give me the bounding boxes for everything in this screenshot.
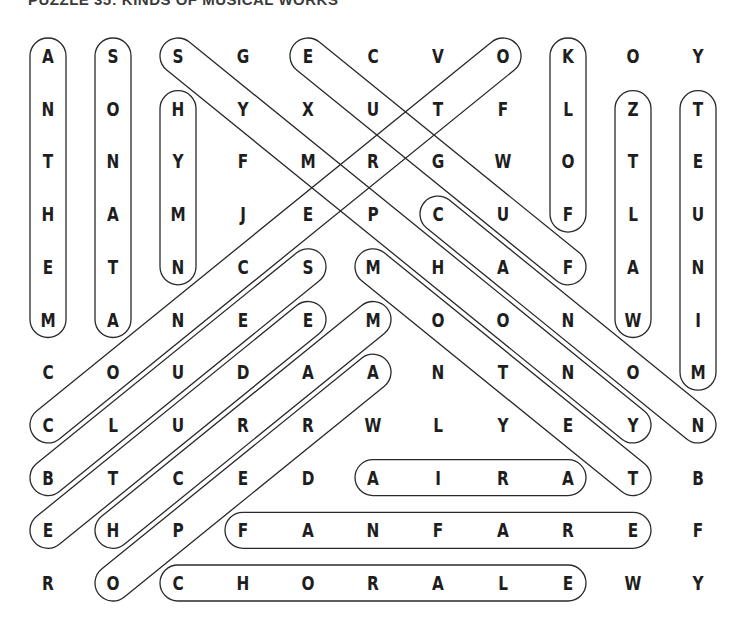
grid-cell[interactable]: N <box>681 252 715 282</box>
grid-cell[interactable]: L <box>421 410 455 440</box>
grid-cell[interactable]: Y <box>681 568 715 598</box>
grid-cell[interactable]: B <box>31 463 65 493</box>
grid-cell[interactable]: Y <box>486 410 520 440</box>
grid-cell[interactable]: U <box>161 410 195 440</box>
grid-cell[interactable]: T <box>486 357 520 387</box>
grid-cell[interactable]: H <box>421 252 455 282</box>
grid-cell[interactable]: C <box>161 463 195 493</box>
grid-cell[interactable]: M <box>291 146 325 176</box>
grid-cell[interactable]: R <box>486 463 520 493</box>
grid-cell[interactable]: A <box>291 515 325 545</box>
grid-cell[interactable]: F <box>421 515 455 545</box>
grid-cell[interactable]: Y <box>161 146 195 176</box>
grid-cell[interactable]: A <box>291 357 325 387</box>
grid-cell[interactable]: N <box>551 305 585 335</box>
grid-cell[interactable]: G <box>421 146 455 176</box>
grid-cell[interactable]: M <box>31 305 65 335</box>
grid-cell[interactable]: R <box>291 410 325 440</box>
grid-cell[interactable]: J <box>226 199 260 229</box>
grid-cell[interactable]: S <box>291 252 325 282</box>
grid-cell[interactable]: K <box>551 41 585 71</box>
grid-cell[interactable]: H <box>31 199 65 229</box>
grid-cell[interactable]: M <box>681 357 715 387</box>
grid-cell[interactable]: N <box>356 515 390 545</box>
grid-cell[interactable]: O <box>96 568 130 598</box>
grid-cell[interactable]: A <box>356 357 390 387</box>
grid-cell[interactable]: C <box>31 410 65 440</box>
grid-cell[interactable]: A <box>486 515 520 545</box>
grid-cell[interactable]: I <box>421 463 455 493</box>
grid-cell[interactable]: O <box>96 94 130 124</box>
grid-cell[interactable]: U <box>356 94 390 124</box>
grid-cell[interactable]: T <box>616 146 650 176</box>
grid-cell[interactable]: R <box>356 146 390 176</box>
grid-cell[interactable]: S <box>161 41 195 71</box>
grid-cell[interactable]: E <box>291 199 325 229</box>
grid-cell[interactable]: E <box>31 515 65 545</box>
grid-cell[interactable]: O <box>486 305 520 335</box>
grid-cell[interactable]: R <box>356 568 390 598</box>
grid-cell[interactable]: N <box>31 94 65 124</box>
grid-cell[interactable]: T <box>96 252 130 282</box>
grid-cell[interactable]: O <box>291 568 325 598</box>
grid-cell[interactable]: L <box>551 94 585 124</box>
grid-cell[interactable]: A <box>31 41 65 71</box>
grid-cell[interactable]: E <box>551 568 585 598</box>
grid-cell[interactable]: E <box>291 41 325 71</box>
grid-cell[interactable]: O <box>616 41 650 71</box>
grid-cell[interactable]: R <box>31 568 65 598</box>
grid-cell[interactable]: F <box>226 146 260 176</box>
grid-cell[interactable]: A <box>96 305 130 335</box>
grid-cell[interactable]: O <box>551 146 585 176</box>
grid-cell[interactable]: A <box>356 463 390 493</box>
grid-cell[interactable]: T <box>31 146 65 176</box>
grid-cell[interactable]: M <box>356 252 390 282</box>
grid-cell[interactable]: D <box>226 357 260 387</box>
grid-cell[interactable]: F <box>551 252 585 282</box>
grid-cell[interactable]: T <box>421 94 455 124</box>
grid-cell[interactable]: W <box>616 568 650 598</box>
grid-cell[interactable]: E <box>551 410 585 440</box>
grid-cell[interactable]: O <box>96 357 130 387</box>
grid-cell[interactable]: Y <box>616 410 650 440</box>
grid-cell[interactable]: S <box>96 41 130 71</box>
grid-cell[interactable]: C <box>161 568 195 598</box>
grid-cell[interactable]: U <box>161 357 195 387</box>
grid-cell[interactable]: A <box>96 199 130 229</box>
grid-cell[interactable]: O <box>486 41 520 71</box>
grid-cell[interactable]: N <box>161 252 195 282</box>
grid-cell[interactable]: A <box>616 252 650 282</box>
grid-cell[interactable]: O <box>421 305 455 335</box>
grid-cell[interactable]: F <box>551 199 585 229</box>
grid-cell[interactable]: E <box>291 305 325 335</box>
grid-cell[interactable]: A <box>421 568 455 598</box>
grid-cell[interactable]: E <box>681 146 715 176</box>
grid-cell[interactable]: T <box>616 463 650 493</box>
grid-cell[interactable]: A <box>551 463 585 493</box>
grid-cell[interactable]: D <box>291 463 325 493</box>
grid-cell[interactable]: R <box>226 410 260 440</box>
grid-cell[interactable]: H <box>226 568 260 598</box>
grid-cell[interactable]: O <box>616 357 650 387</box>
grid-cell[interactable]: T <box>681 94 715 124</box>
grid-cell[interactable]: R <box>551 515 585 545</box>
grid-cell[interactable]: W <box>356 410 390 440</box>
grid-cell[interactable]: E <box>226 463 260 493</box>
grid-cell[interactable]: Y <box>226 94 260 124</box>
grid-cell[interactable]: I <box>681 305 715 335</box>
grid-cell[interactable]: U <box>486 199 520 229</box>
grid-cell[interactable]: N <box>421 357 455 387</box>
grid-cell[interactable]: X <box>291 94 325 124</box>
grid-cell[interactable]: W <box>616 305 650 335</box>
grid-cell[interactable]: C <box>356 41 390 71</box>
grid-cell[interactable]: H <box>161 94 195 124</box>
grid-cell[interactable]: A <box>486 252 520 282</box>
grid-cell[interactable]: P <box>161 515 195 545</box>
grid-cell[interactable]: Y <box>681 41 715 71</box>
grid-cell[interactable]: M <box>161 199 195 229</box>
grid-cell[interactable]: G <box>226 41 260 71</box>
grid-cell[interactable]: F <box>681 515 715 545</box>
grid-cell[interactable]: P <box>356 199 390 229</box>
grid-cell[interactable]: E <box>31 252 65 282</box>
grid-cell[interactable]: N <box>161 305 195 335</box>
